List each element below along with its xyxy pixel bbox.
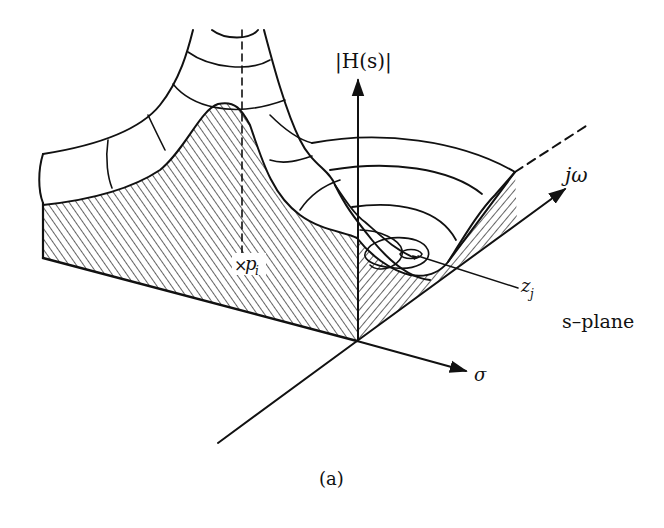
j-omega-axis-label: jω (561, 163, 588, 187)
left-cross-section (43, 103, 357, 341)
pole-subscript: i (255, 264, 259, 278)
s-plane-label: s–plane (562, 310, 634, 332)
surface-left-outline (43, 30, 193, 154)
contour-2 (330, 166, 482, 194)
figure-caption: (a) (319, 468, 344, 489)
surface-left-lip (39, 154, 43, 203)
sigma-axis (357, 341, 466, 371)
sigma-axis-label: σ (474, 364, 487, 385)
right-cross-section (357, 172, 517, 341)
s-plane-magnitude-surface-diagram: × p i z j |H(s)| σ jω s–plane (a) (0, 0, 664, 528)
negative-imaginary-axis (218, 341, 357, 443)
magnitude-axis-label: |H(s)| (335, 49, 392, 74)
contour-1 (312, 137, 515, 172)
surface-top-rim (212, 30, 258, 38)
